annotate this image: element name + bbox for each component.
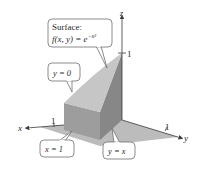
- callout-x-equals-1: x = 1: [40, 131, 74, 157]
- callout-y-equals-0-text: y = 0: [52, 68, 72, 78]
- y-tick-label: 1: [165, 122, 170, 132]
- z-tick-label: 1: [127, 49, 132, 59]
- x-axis-label: x: [17, 123, 22, 133]
- callout-y-equals-x-text: y = x: [107, 146, 126, 156]
- callout-surface: Surface: f(x, y) = e−x²: [48, 19, 112, 68]
- callout-y-equals-0: y = 0: [48, 63, 80, 92]
- diagram-svg: z 1 x 1 y 1 Surface: f(x, y) = e−x² y = …: [0, 0, 199, 174]
- callout-x-equals-1-text: x = 1: [44, 144, 63, 154]
- callout-surface-title: Surface:: [52, 22, 82, 32]
- y-axis-label: y: [183, 133, 188, 143]
- z-axis-label: z: [119, 9, 124, 18]
- x-tick-label: 1: [51, 116, 56, 126]
- diagram-stage: z 1 x 1 y 1 Surface: f(x, y) = e−x² y = …: [0, 0, 199, 174]
